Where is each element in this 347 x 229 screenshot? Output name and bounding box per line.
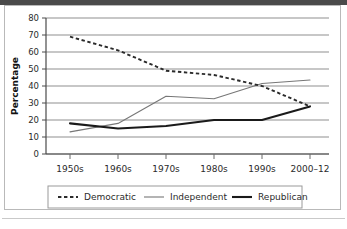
y-axis-title: Percentage	[10, 57, 20, 115]
y-tick-label: 20	[28, 115, 39, 125]
legend-label-independent: Independent	[170, 192, 228, 202]
y-tick-labels: 80 70 60 50 40 30 20 10 0	[28, 13, 39, 159]
y-axis	[42, 18, 46, 154]
x-tick-label: 1980s	[200, 164, 228, 174]
y-tick-label: 40	[28, 81, 39, 91]
series-group	[70, 37, 310, 132]
y-tick-label: 0	[34, 149, 39, 159]
x-tick-labels: 1950s 1960s 1970s 1980s 1990s 2000–12	[56, 164, 329, 174]
legend-label-democratic: Democratic	[84, 192, 136, 202]
series-line-democratic	[70, 37, 310, 107]
y-tick-label: 60	[28, 47, 39, 57]
x-tick-label: 1950s	[56, 164, 84, 174]
y-tick-label: 10	[28, 132, 39, 142]
x-tick-label: 1960s	[104, 164, 132, 174]
gridlines	[46, 18, 329, 154]
y-tick-label: 50	[28, 64, 39, 74]
legend-label-republican: Republican	[258, 192, 308, 202]
series-line-independent	[70, 80, 310, 132]
x-tick-label: 1990s	[248, 164, 276, 174]
chart-figure: 80 70 60 50 40 30 20 10 0 Percentage 195…	[0, 0, 347, 229]
x-tick-label: 2000–12	[291, 164, 330, 174]
x-tick-label: 1970s	[152, 164, 180, 174]
line-chart-svg: 80 70 60 50 40 30 20 10 0 Percentage 195…	[0, 0, 347, 229]
y-tick-label: 80	[28, 13, 39, 23]
x-axis	[46, 154, 329, 159]
y-tick-label: 70	[28, 30, 39, 40]
chart-legend: Democratic Independent Republican	[48, 186, 308, 208]
y-tick-label: 30	[28, 98, 39, 108]
